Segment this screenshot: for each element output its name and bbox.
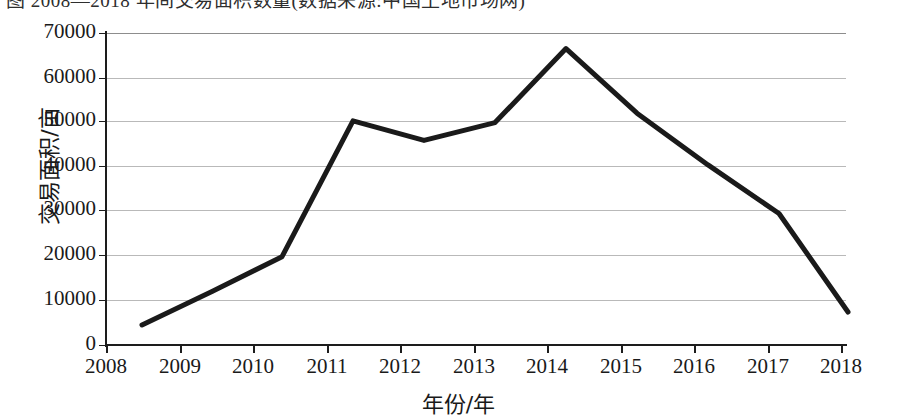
x-tick-2009 (180, 344, 182, 353)
figure-root: 图 2008—2018 年间交易面积数量(数据来源:中国土地市场网) 01000… (0, 0, 917, 418)
x-tick-2008 (106, 344, 108, 353)
x-axis-tick-label: 2016 (654, 356, 734, 377)
x-axis-tick-label: 2018 (801, 356, 881, 377)
x-axis-tick-label: 2011 (287, 356, 367, 377)
x-axis-tick-label: 2012 (360, 356, 440, 377)
x-tick-2012 (400, 344, 402, 353)
x-tick-2014 (547, 344, 549, 353)
x-tick-2015 (621, 344, 623, 353)
x-axis-tick-label: 2008 (66, 356, 146, 377)
x-axis-tick-label: 2009 (140, 356, 220, 377)
x-tick-2018 (841, 344, 843, 353)
x-tick-2013 (474, 344, 476, 353)
y-tick-20000 (99, 255, 107, 256)
y-tick-70000 (99, 33, 107, 34)
x-tick-2011 (327, 344, 329, 353)
y-tick-40000 (99, 166, 107, 167)
series-line-path (142, 49, 848, 325)
x-axis-tick-label: 2014 (507, 356, 587, 377)
y-tick-30000 (99, 210, 107, 211)
y-tick-60000 (99, 78, 107, 79)
y-tick-50000 (99, 121, 107, 122)
x-axis-tick-label: 2010 (213, 356, 293, 377)
x-axis-tick-label: 2017 (728, 356, 808, 377)
x-tick-2016 (694, 344, 696, 353)
x-axis-tick-label: 2013 (434, 356, 514, 377)
x-tick-2010 (253, 344, 255, 353)
x-axis-tick-label: 2015 (581, 356, 661, 377)
x-tick-2017 (768, 344, 770, 353)
y-tick-10000 (99, 300, 107, 301)
